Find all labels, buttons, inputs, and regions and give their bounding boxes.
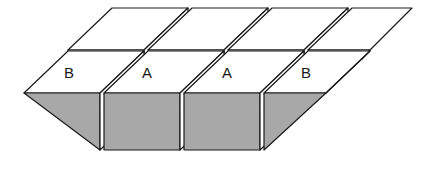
block-label-3: A — [222, 64, 232, 81]
block-label-2: A — [142, 64, 152, 81]
block-label-1: B — [64, 64, 74, 81]
isometric-diagram-svg: B A A B — [0, 0, 423, 174]
stepped-surface-figure: B A A B — [0, 0, 423, 174]
block-4-front-face — [264, 93, 326, 150]
block-1-front-face — [24, 93, 100, 150]
block-3-front-face — [184, 93, 260, 150]
block-label-4: B — [301, 64, 311, 81]
front-block-group — [24, 51, 370, 150]
block-2-front-face — [104, 93, 180, 150]
